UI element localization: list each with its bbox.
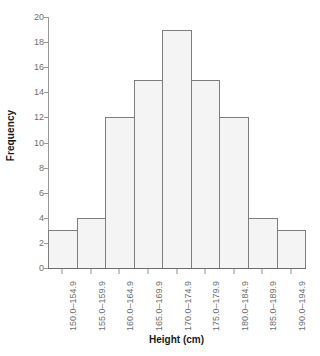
x-axis-tick-labels: 150.0–154.9155.0–159.9160.0–164.9165.0–1…: [48, 275, 305, 331]
x-axis-tick-mark: [62, 269, 63, 274]
bar: [48, 230, 78, 268]
x-axis-tick-label: 175.0–179.9: [209, 275, 223, 331]
bar: [134, 80, 164, 268]
x-axis-tick-label: 190.0–194.9: [295, 275, 309, 331]
y-axis-tick-labels: 02468101214161820: [22, 0, 44, 356]
x-axis-tick-mark: [176, 269, 177, 274]
y-axis-tick-label: 0: [24, 264, 44, 273]
y-axis-tick-label: 4: [24, 213, 44, 222]
y-axis-tick-label: 6: [24, 188, 44, 197]
x-axis-tick-marks: [48, 269, 305, 274]
x-axis-tick-mark: [233, 269, 234, 274]
x-axis-tick-label: 155.0–159.9: [95, 275, 109, 331]
bar: [77, 218, 107, 268]
bar: [277, 230, 307, 268]
y-axis-tick-label: 8: [24, 163, 44, 172]
bar: [191, 80, 221, 268]
plot-area: [48, 17, 305, 268]
y-axis-tick-label: 14: [24, 88, 44, 97]
x-axis-tick-mark: [290, 269, 291, 274]
x-axis-tick-label: 150.0–154.9: [66, 275, 80, 331]
x-axis-tick-label: 160.0–164.9: [123, 275, 137, 331]
x-axis-tick-mark: [205, 269, 206, 274]
y-axis-tick-label: 2: [24, 238, 44, 247]
x-axis-tick-label: 165.0–169.9: [152, 275, 166, 331]
y-axis-title-text: Frequency: [6, 109, 17, 160]
bar: [248, 218, 278, 268]
bar-series: [48, 17, 305, 268]
x-axis-tick-label: 180.0–184.9: [238, 275, 252, 331]
x-axis-tick-mark: [90, 269, 91, 274]
bar: [105, 117, 135, 268]
y-axis-tick-label: 20: [24, 13, 44, 22]
bar: [162, 30, 192, 268]
x-axis-tick-mark: [147, 269, 148, 274]
y-axis-tick-label: 16: [24, 63, 44, 72]
y-axis-title: Frequency: [0, 0, 22, 270]
x-axis-tick-label: 170.0–174.9: [181, 275, 195, 331]
histogram-chart: Frequency 02468101214161820 150.0–154.91…: [0, 0, 320, 356]
y-axis-tick-label: 12: [24, 113, 44, 122]
x-axis-tick-label: 185.0–189.9: [266, 275, 280, 331]
x-axis-tick-mark: [262, 269, 263, 274]
x-axis-title: Height (cm): [48, 334, 305, 345]
y-axis-tick-label: 10: [24, 138, 44, 147]
bar: [219, 117, 249, 268]
y-axis-tick-label: 18: [24, 38, 44, 47]
x-axis-tick-mark: [119, 269, 120, 274]
